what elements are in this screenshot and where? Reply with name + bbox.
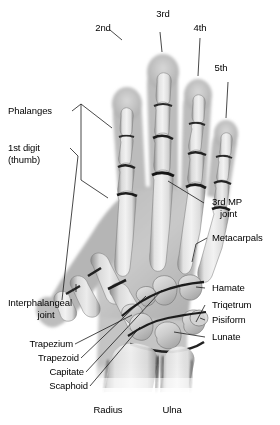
label-digit-3: 3rd	[146, 8, 180, 19]
label-triquetrum: Triqetrum	[212, 299, 251, 310]
label-3rd-mp-joint-line2: joint	[220, 208, 237, 219]
label-3rd-mp-joint-line1: 3rd MP	[212, 196, 242, 207]
label-phalanges: Phalanges	[8, 105, 52, 116]
label-ulna: Ulna	[152, 404, 192, 415]
label-metacarpals: Metacarpals	[212, 232, 263, 243]
label-scaphoid: Scaphoid	[0, 380, 88, 391]
label-digit-2: 2nd	[86, 22, 120, 33]
label-interphalangeal-line2: joint	[8, 309, 84, 320]
label-trapezoid: Trapezoid	[0, 352, 79, 363]
label-hamate: Hamate	[212, 282, 245, 293]
hand-xray-figure: 2nd 3rd 4th 5th Phalanges 1st digit (thu…	[0, 0, 280, 425]
label-digit-5: 5th	[206, 62, 236, 73]
lunate-bone	[155, 322, 181, 349]
label-first-digit-line1: 1st digit	[8, 142, 40, 153]
label-radius: Radius	[86, 404, 130, 415]
label-interphalangeal-line1: Interphalangeal	[8, 297, 72, 308]
label-capitate: Capitate	[0, 366, 84, 377]
label-digit-4: 4th	[183, 22, 217, 33]
label-trapezium: Trapezium	[0, 338, 73, 349]
label-lunate: Lunate	[212, 331, 240, 342]
label-pisiform: Pisiform	[212, 314, 246, 325]
label-first-digit-line2: (thumb)	[8, 154, 40, 165]
